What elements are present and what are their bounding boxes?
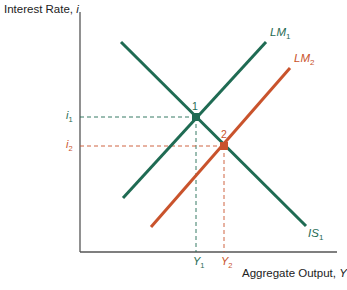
is1-label: IS1 [308, 227, 323, 242]
y2-sub: 2 [228, 261, 232, 270]
is1-label-text: IS [308, 227, 319, 239]
x-axis-var: Y [339, 267, 347, 279]
lm2-sub: 2 [310, 58, 314, 67]
y-axis-var: i [76, 3, 79, 15]
point-1-label: 1 [192, 100, 198, 112]
y1-label: Y1 [193, 255, 205, 270]
point-2-label: 2 [221, 128, 227, 140]
equilibrium-point-2 [220, 142, 228, 150]
y-axis-label: Interest Rate, i [4, 3, 79, 15]
x-axis-label: Aggregate Output, Y [242, 267, 347, 279]
lm1-label: LM1 [270, 26, 290, 41]
y-axis-label-text: Interest Rate, [4, 3, 76, 15]
lm1-label-text: LM [270, 26, 286, 38]
is1-curve [121, 42, 306, 226]
x-axis-label-text: Aggregate Output, [242, 267, 339, 279]
i1-label: i1 [66, 109, 73, 124]
i1-sub: 1 [68, 115, 72, 124]
y2-label: Y2 [221, 255, 233, 270]
lm1-sub: 1 [286, 32, 290, 41]
is1-sub: 1 [319, 233, 323, 242]
islm-diagram [0, 0, 347, 290]
i2-sub: 2 [68, 144, 72, 153]
equilibrium-point-1 [192, 113, 200, 121]
lm2-label-text: LM [294, 52, 310, 64]
y1-sub: 1 [200, 261, 204, 270]
lm2-label: LM2 [294, 52, 314, 67]
i2-label: i2 [66, 138, 73, 153]
